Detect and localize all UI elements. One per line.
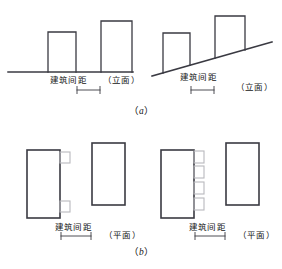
- caption-a-open: （: [129, 106, 139, 116]
- spacing-label-a-right: 建筑间距: [180, 73, 217, 82]
- dimension-a-right: [191, 87, 214, 94]
- dimension-b-right: [195, 233, 225, 240]
- caption-b: （b）: [129, 248, 154, 258]
- panel-a-left-elevation: [8, 21, 133, 72]
- ground-line-sloped: [152, 42, 272, 76]
- projection-block: [60, 201, 70, 212]
- view-label-b-right: （平面）: [238, 231, 275, 240]
- dimension-b-left: [61, 233, 91, 240]
- projection-block: [194, 151, 204, 163]
- view-label-b-left: （平面）: [104, 231, 141, 240]
- spacing-label-b-right: 建筑间距: [189, 223, 226, 232]
- plan-building-right: [226, 143, 259, 205]
- projection-block: [194, 166, 204, 178]
- plan-building-right: [92, 143, 125, 205]
- building-outline-tall: [101, 21, 132, 72]
- panel-b-right-plan: [161, 143, 259, 218]
- projection-block: [194, 198, 204, 210]
- panel-b-left-plan: [27, 143, 125, 218]
- view-label-a-right: （立面）: [236, 83, 273, 92]
- plan-projections-b-right: [194, 151, 204, 210]
- building-outline-short: [48, 32, 76, 72]
- spacing-label-a-left: 建筑间距: [50, 76, 87, 85]
- projection-block: [194, 182, 204, 194]
- dimension-a-left: [77, 87, 100, 94]
- panel-a-right-elevation: [152, 16, 272, 76]
- plan-projections-b-left: [60, 152, 70, 212]
- view-label-a-left: （立面）: [103, 76, 140, 85]
- caption-b-open: （: [129, 247, 139, 257]
- caption-a-close: ）: [144, 106, 154, 116]
- figure-canvas: 建筑间距 （立面） 建筑间距 （立面） （a） 建筑间距 （平面） 建筑间距 （…: [0, 0, 282, 269]
- spacing-label-b-left: 建筑间距: [55, 223, 92, 232]
- plan-building-left: [161, 150, 194, 218]
- caption-b-close: ）: [144, 247, 154, 257]
- plan-building-left: [27, 150, 60, 218]
- projection-block: [60, 152, 70, 163]
- caption-a: （a）: [129, 107, 154, 117]
- diagram-vector-layer: [0, 0, 282, 269]
